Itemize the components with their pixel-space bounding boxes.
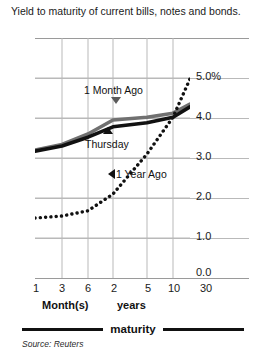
x-axis-baseline	[35, 278, 249, 279]
x-tick-label-3mo: 3	[59, 282, 65, 294]
y-tick-label-1: 1.0	[196, 230, 211, 242]
x-tick-label-10yr: 10	[168, 282, 180, 294]
y-tick-label-5: 5.0%	[196, 70, 221, 82]
triangle-left-icon	[108, 169, 115, 179]
x-tick-label-6mo: 6	[85, 282, 91, 294]
triangle-up-icon	[103, 127, 113, 134]
y-tick-label-2: 2.0	[196, 190, 211, 202]
x-tick-label-1mo: 1	[33, 282, 39, 294]
y-tick-label-3: 3.0	[196, 150, 211, 162]
yield-curve-chart: Yield to maturity of current bills, note…	[0, 0, 266, 356]
y-tick-label-4: 4.0	[196, 110, 211, 122]
x-tick-label-5yr: 5	[145, 282, 151, 294]
x-group-label-years: years	[117, 299, 146, 311]
legend: maturity	[22, 322, 244, 336]
series-canvas	[35, 38, 190, 278]
plot-area	[35, 38, 190, 278]
x-tick-label-2yr: 2	[111, 282, 117, 294]
source-note: Source: Reuters	[22, 339, 83, 349]
legend-rule-left	[22, 328, 103, 331]
annotation-1-year-ago: 1 Year Ago	[116, 168, 167, 180]
y-tick-label-0: 0.0	[196, 266, 211, 278]
annotation-thursday: Thursday	[85, 138, 129, 150]
legend-rule-right	[163, 328, 244, 331]
chart-title: Yield to maturity of current bills, note…	[11, 5, 251, 18]
x-tick-label-30yr: 30	[200, 282, 212, 294]
triangle-down-icon	[111, 97, 121, 104]
legend-label: maturity	[103, 323, 162, 335]
x-group-label-months: Month(s)	[42, 299, 88, 311]
annotation-1-month-ago: 1 Month Ago	[84, 84, 143, 96]
